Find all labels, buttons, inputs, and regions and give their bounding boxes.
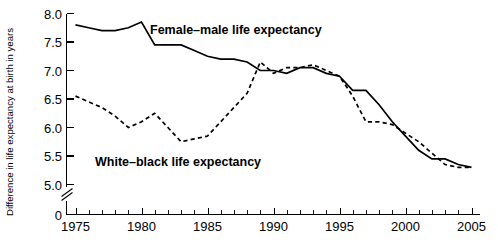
x-tick-labels: 1975198019851990199520002005: [61, 219, 486, 234]
x-tick-label-1975: 1975: [61, 219, 90, 234]
y-tick-label-6.0: 6.0: [44, 121, 62, 136]
y-tick-label-5.0: 5.0: [44, 178, 62, 193]
y-axis-break-icon: [62, 189, 73, 197]
x-tick-label-1980: 1980: [127, 219, 156, 234]
y-axis-title: Difference in life expectancy at birth i…: [4, 28, 15, 216]
series-group: [76, 22, 472, 167]
x-tick-label-1985: 1985: [193, 219, 222, 234]
axes: [62, 14, 480, 215]
x-tick-label-2005: 2005: [457, 219, 486, 234]
y-tick-label-7.0: 7.0: [44, 64, 62, 79]
y-tick-labels: 8.0 7.5 7.0 6.5 6.0 5.5 5.0 0: [44, 7, 62, 223]
y-tick-label-5.5: 5.5: [44, 149, 62, 164]
series-line-female-male: [76, 22, 472, 167]
y-ticks: [67, 14, 74, 215]
chart-svg: Difference in life expectancy at birth i…: [0, 0, 498, 252]
y-tick-label-8.0: 8.0: [44, 7, 62, 22]
y-tick-label-7.5: 7.5: [44, 35, 62, 50]
series-line-white-black: [76, 62, 472, 167]
x-ticks: [77, 208, 473, 215]
series-label-female-male: Female–male life expectancy: [150, 23, 322, 37]
x-tick-label-1995: 1995: [325, 219, 354, 234]
series-label-white-black: White–black life expectancy: [95, 155, 261, 169]
life-expectancy-difference-chart: Difference in life expectancy at birth i…: [0, 0, 498, 252]
y-tick-label-6.5: 6.5: [44, 92, 62, 107]
y-axis-break-icon-2: [62, 193, 73, 201]
x-tick-label-1990: 1990: [259, 219, 288, 234]
x-tick-label-2000: 2000: [391, 219, 420, 234]
